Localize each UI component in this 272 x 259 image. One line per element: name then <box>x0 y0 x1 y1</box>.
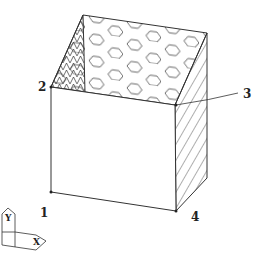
vertex-4-marker <box>175 210 178 213</box>
vertex-label-3: 3 <box>243 87 251 101</box>
left-face <box>51 15 85 92</box>
vertex-label-1: 1 <box>40 206 48 220</box>
vertex-2-marker <box>50 86 53 89</box>
x-axis-label: X <box>33 237 40 247</box>
vertex-label-4: 4 <box>191 210 199 224</box>
vertex-1-marker <box>50 191 53 194</box>
front-face <box>51 87 176 211</box>
vertex-label-2: 2 <box>38 80 46 94</box>
y-axis-label: Y <box>4 213 12 223</box>
vertex-3-marker <box>175 104 178 107</box>
box-diagram: 2 3 1 4 Y X <box>0 0 272 259</box>
